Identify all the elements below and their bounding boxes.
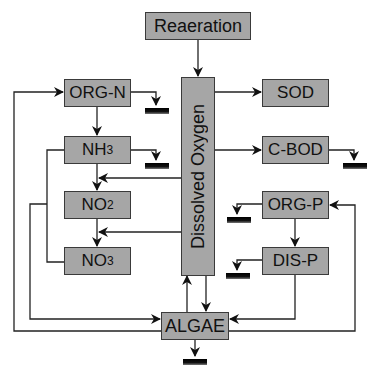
node-subscript: 2 bbox=[107, 198, 114, 212]
node-label: ALGAE bbox=[165, 316, 225, 337]
node-subscript: 3 bbox=[107, 254, 114, 268]
sink-icon bbox=[145, 163, 169, 169]
node-dis-p: DIS-P bbox=[262, 247, 329, 275]
arrow-orgn-sink bbox=[131, 92, 156, 105]
arrow-cbod-sink bbox=[329, 150, 354, 160]
arrow-nh3-sink bbox=[131, 150, 156, 160]
node-no2: NO2 bbox=[64, 191, 131, 219]
node-algae: ALGAE bbox=[161, 312, 229, 340]
node-org-p: ORG-P bbox=[262, 191, 329, 219]
sink-icon bbox=[145, 108, 169, 114]
arrow-disp-sink bbox=[237, 260, 262, 270]
node-label: ORG-N bbox=[69, 83, 126, 103]
arrow-orgp-sink bbox=[237, 204, 262, 214]
node-label: DIS-P bbox=[273, 251, 318, 271]
node-no3: NO3 bbox=[64, 247, 131, 275]
node-dissolved-oxygen: Dissolved Oxygen bbox=[181, 77, 215, 276]
node-label: C-BOD bbox=[268, 140, 323, 160]
node-c-bod: C-BOD bbox=[262, 136, 329, 164]
sink-icon bbox=[227, 217, 251, 223]
node-org-n: ORG-N bbox=[64, 79, 131, 107]
node-nh3: NH3 bbox=[64, 136, 131, 164]
node-reaeration: Reaeration bbox=[145, 12, 251, 40]
node-label: NO bbox=[81, 251, 107, 271]
arrow-disp-algae bbox=[230, 275, 295, 319]
line-nh3-no3 bbox=[47, 150, 64, 262]
node-label: NO bbox=[81, 195, 107, 215]
node-label: SOD bbox=[277, 83, 314, 103]
sink-icon bbox=[343, 163, 367, 169]
node-sod: SOD bbox=[262, 79, 329, 107]
sink-icon bbox=[226, 273, 250, 279]
node-label: ORG-P bbox=[268, 195, 324, 215]
node-label: NH bbox=[82, 140, 107, 160]
sink-icon bbox=[183, 359, 207, 365]
node-subscript: 3 bbox=[106, 143, 113, 157]
node-label: Reaeration bbox=[154, 16, 242, 37]
node-label: Dissolved Oxygen bbox=[188, 104, 209, 249]
